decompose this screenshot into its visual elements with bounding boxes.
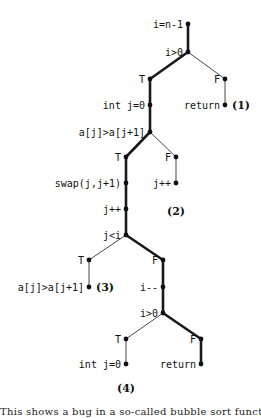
- node-dot-icon: [87, 285, 92, 290]
- branch-label: T: [115, 152, 121, 163]
- node-dot-icon: [199, 337, 204, 342]
- branch-label: T: [78, 255, 84, 266]
- node-dot-icon: [124, 233, 129, 238]
- node-label: a[j]>a[j+1]: [79, 127, 145, 138]
- node-dot-icon: [148, 130, 153, 135]
- node-dot-icon: [186, 22, 191, 27]
- figure-caption: This shows a bug in a so-called bubble s…: [0, 406, 261, 418]
- node-label: return: [160, 359, 196, 370]
- node-dot-icon: [148, 77, 153, 82]
- node-label: i=n-1: [153, 19, 183, 30]
- node-dot-icon: [161, 258, 166, 263]
- node-dot-icon: [124, 207, 129, 212]
- node-label: int j=0: [79, 359, 121, 370]
- branch-label: F: [152, 255, 158, 266]
- node-dot-icon: [174, 181, 179, 186]
- node-dot-icon: [87, 258, 92, 263]
- node-dot-icon: [148, 103, 153, 108]
- node-label: j<i: [103, 230, 121, 241]
- node-label: i--: [140, 282, 158, 293]
- branch-label: F: [214, 74, 220, 85]
- node-dot-icon: [124, 155, 129, 160]
- case-number-label: (3): [96, 281, 114, 294]
- node-dot-icon: [161, 311, 166, 316]
- node-label: a[j]>a[j+1]: [18, 282, 84, 293]
- node-dot-icon: [124, 181, 129, 186]
- case-number-label: (4): [117, 382, 135, 395]
- case-number-label: (1): [232, 99, 250, 112]
- node-dot-icon: [161, 285, 166, 290]
- case-label-group: (1)(2)(3)(4): [96, 99, 250, 395]
- node-dot-icon: [223, 103, 228, 108]
- node-label: j++: [103, 204, 121, 215]
- node-label: i>0: [140, 308, 158, 319]
- node-label: swap(j,j+1): [55, 178, 121, 189]
- case-number-label: (2): [167, 205, 185, 218]
- node-label: return: [184, 100, 220, 111]
- branch-label: F: [165, 152, 171, 163]
- node-label: i>0: [165, 47, 183, 58]
- branch-label: T: [139, 74, 145, 85]
- node-dot-icon: [199, 362, 204, 367]
- node-dot-icon: [124, 362, 129, 367]
- node-dot-icon: [124, 337, 129, 342]
- node-label: int j=0: [103, 100, 145, 111]
- node-dot-icon: [186, 50, 191, 55]
- node-label: j++: [153, 178, 171, 189]
- branch-label: F: [190, 334, 196, 345]
- node-dot-icon: [174, 155, 179, 160]
- node-dot-icon: [223, 77, 228, 82]
- branch-label: T: [115, 334, 121, 345]
- node-group: i=n-1i>0TFint j=0returna[j]>a[j+1]TFswap…: [18, 19, 228, 370]
- edge-n7-n9: [150, 132, 176, 157]
